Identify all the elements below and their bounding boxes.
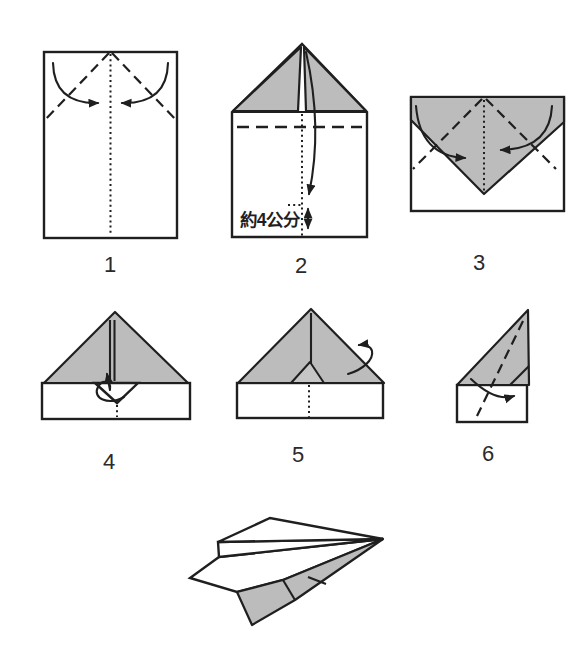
measurement-label: 約4公分: [240, 210, 302, 230]
step-3-figure: 3: [411, 97, 564, 275]
step-2-figure: 約4公分 2: [232, 44, 367, 278]
far-wing: [218, 518, 383, 542]
paper-strip: [457, 385, 527, 422]
step-3-number: 3: [473, 250, 485, 275]
step-2-number: 2: [295, 253, 307, 278]
origami-figure-canvas: 1 約4公分 2 3 4: [0, 0, 577, 656]
step-4-number: 4: [103, 449, 115, 474]
step-1-number: 1: [104, 252, 116, 277]
step-5-figure: 5: [237, 309, 384, 467]
step-6-number: 6: [482, 441, 494, 466]
step-6-figure: 6: [457, 310, 529, 466]
folded-triangle: [44, 312, 188, 383]
finished-airplane-figure: [190, 518, 383, 625]
step-4-figure: 4: [42, 312, 190, 474]
origami-instruction-sheet: 1 約4公分 2 3 4: [0, 0, 577, 656]
folded-body-triangle: [457, 310, 529, 385]
step-1-figure: 1: [44, 52, 177, 277]
step-5-number: 5: [292, 442, 304, 467]
folded-corner-left: [233, 47, 301, 111]
